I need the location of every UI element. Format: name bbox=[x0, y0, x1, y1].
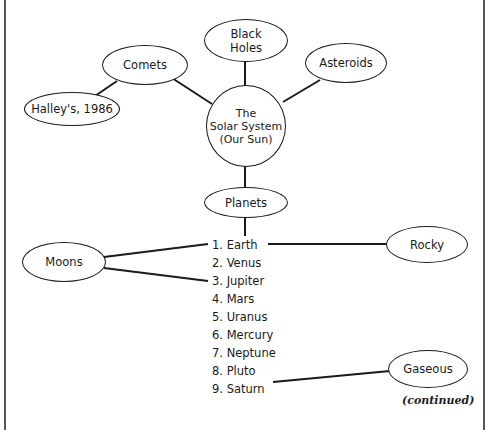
node-planets: Planets bbox=[204, 187, 288, 218]
planet-item: 1. Earth bbox=[212, 236, 276, 254]
planet-item: 8. Pluto bbox=[212, 362, 276, 380]
continued-note: (continued) bbox=[402, 394, 474, 407]
planet-item: 2. Venus bbox=[212, 254, 276, 272]
node-asteroids: Asteroids bbox=[305, 43, 387, 83]
edge-comets-halleys bbox=[95, 81, 117, 96]
planet-item: 6. Mercury bbox=[212, 326, 276, 344]
node-moons: Moons bbox=[22, 242, 106, 282]
planet-item: 4. Mars bbox=[212, 290, 276, 308]
node-halleys: Halley's, 1986 bbox=[24, 92, 120, 126]
planet-item: 3. Jupiter bbox=[212, 272, 276, 290]
planet-item: 9. Saturn bbox=[212, 380, 276, 398]
node-gaseous: Gaseous bbox=[388, 350, 468, 388]
edge-sun-comets bbox=[172, 78, 212, 104]
edge-saturn-gaseous bbox=[273, 371, 390, 382]
node-black-holes: Black Holes bbox=[204, 19, 288, 62]
planet-item: 5. Uranus bbox=[212, 308, 276, 326]
planet-list: 1. Earth 2. Venus 3. Jupiter 4. Mars 5. … bbox=[212, 236, 276, 398]
node-comets: Comets bbox=[102, 45, 188, 85]
planet-item: 7. Neptune bbox=[212, 344, 276, 362]
edge-sun-asteroids bbox=[283, 80, 320, 102]
node-rocky: Rocky bbox=[386, 226, 468, 263]
node-solar-system: The Solar System (Our Sun) bbox=[206, 85, 286, 167]
edge-moons-jupiter bbox=[104, 268, 208, 281]
edge-moons-earth bbox=[104, 244, 208, 257]
